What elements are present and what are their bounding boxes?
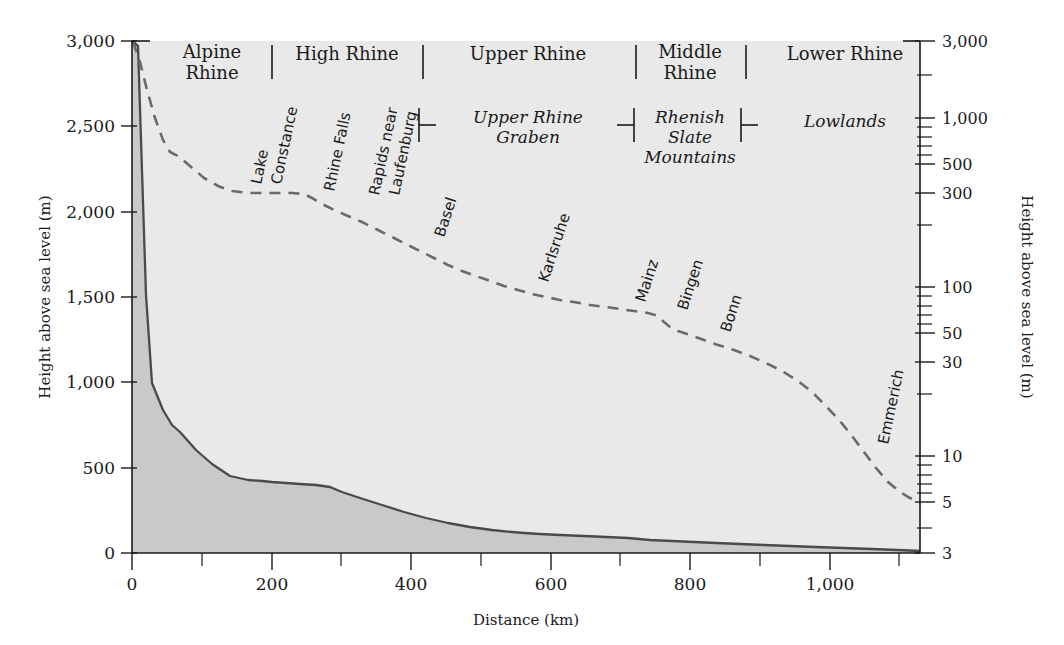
left-ytick-label-3000: 3,000 [66,31,115,51]
left-ytick-label-2000: 2,000 [66,202,115,222]
x-axis-title: Distance (km) [473,611,579,629]
region-label-middle-rhine-line2: Rhine [663,62,716,83]
region-label-middle-rhine-line1: Middle [658,41,722,62]
region-label-alpine-rhine-line2: Rhine [185,62,238,83]
region-label-upper-rhine-graben-line2: Graben [496,127,560,147]
left-y-axis-title: Height above sea level (m) [36,195,54,398]
region-label-upper-rhine: Upper Rhine [470,43,586,64]
left-ytick-label-500: 500 [83,458,115,478]
right-ytick-label-3: 3 [942,544,952,563]
xtick-label-0: 0 [127,574,138,594]
right-ytick-label-1000: 1,000 [942,109,988,128]
region-label-high-rhine: High Rhine [295,43,398,64]
xtick-label-200: 200 [256,574,288,594]
right-ytick-label-100: 100 [942,278,973,297]
region-label-alpine-rhine-line1: Alpine [182,41,241,62]
right-y-axis-title: Height above sea level (m) [1018,195,1036,398]
xtick-label-800: 800 [674,574,706,594]
region-label-lower-rhine: Lower Rhine [787,43,903,64]
region-label-upper-rhine-graben-line1: Upper Rhine [473,107,583,127]
left-ytick-label-1000: 1,000 [66,372,115,392]
right-ytick-label-300: 300 [942,184,973,203]
region-label-rhenish-slate-mountains-line3: Mountains [643,147,736,167]
rhine-longitudinal-profile-figure: 3,000 2,500 2,000 1,500 1,000 500 0 Heig… [0,0,1064,645]
xtick-label-400: 400 [395,574,427,594]
right-ytick-label-30: 30 [942,353,962,372]
region-label-rhenish-slate-mountains-line2: Slate [668,127,712,147]
xtick-label-600: 600 [535,574,567,594]
right-ytick-label-500: 500 [942,155,973,174]
xtick-label-1000: 1,000 [806,574,855,594]
left-ytick-label-1500: 1,500 [66,287,115,307]
region-label-lowlands: Lowlands [803,111,886,131]
right-ytick-label-5: 5 [942,493,952,512]
left-ytick-label-0: 0 [104,543,115,563]
right-ytick-label-3000: 3,000 [942,32,988,51]
left-ytick-label-2500: 2,500 [66,116,115,136]
region-label-rhenish-slate-mountains-line1: Rhenish [654,107,725,127]
right-ytick-label-10: 10 [942,447,962,466]
right-ytick-label-50: 50 [942,324,962,343]
